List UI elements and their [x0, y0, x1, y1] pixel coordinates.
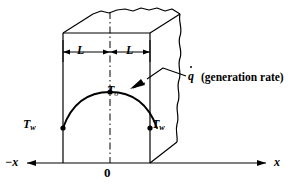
label-half-thickness-left: L [77, 44, 84, 56]
label-half-thickness-right: L [126, 44, 133, 56]
label-generation-symbol-text: q [188, 69, 194, 83]
point-wall-temperature-left [60, 125, 65, 130]
label-center-temperature-subscript: o [114, 89, 118, 98]
label-axis-negative: −x [5, 156, 18, 168]
top-face-right-edge [150, 14, 180, 33]
label-generation-symbol: q [188, 70, 194, 82]
slab-side-face [150, 14, 181, 163]
dimension-L-left-arrow-end [103, 50, 110, 55]
top-face-left-edge [63, 14, 93, 33]
label-center-temperature: To [107, 84, 118, 98]
label-axis-positive: x [274, 156, 280, 168]
slab-top-face [63, 8, 180, 33]
dimension-L-left-arrow-start [63, 50, 70, 55]
label-origin: 0 [104, 166, 111, 179]
label-wall-temperature-right: Tw [152, 118, 165, 132]
label-wall-temperature-left-subscript: w [30, 123, 35, 132]
side-face-bottom-edge [150, 142, 177, 163]
dimension-L-right-arrow-end [143, 50, 150, 55]
label-wall-temperature-right-subscript: w [159, 123, 164, 132]
diagram-canvas [0, 0, 294, 185]
side-face-torn-edge [176, 14, 181, 142]
heat-generation-slab-diagram: L L To q (generation rate) Tw Tw −x x 0 [0, 0, 294, 185]
dimension-L-right-arrow-start [110, 50, 117, 55]
top-face-torn-back-edge [93, 8, 180, 14]
label-generation-caption: (generation rate) [201, 72, 284, 84]
x-axis-arrow-positive [257, 160, 266, 166]
dimension-L-left [63, 40, 110, 62]
x-axis-arrow-negative [27, 160, 36, 166]
label-wall-temperature-left: Tw [23, 118, 36, 132]
